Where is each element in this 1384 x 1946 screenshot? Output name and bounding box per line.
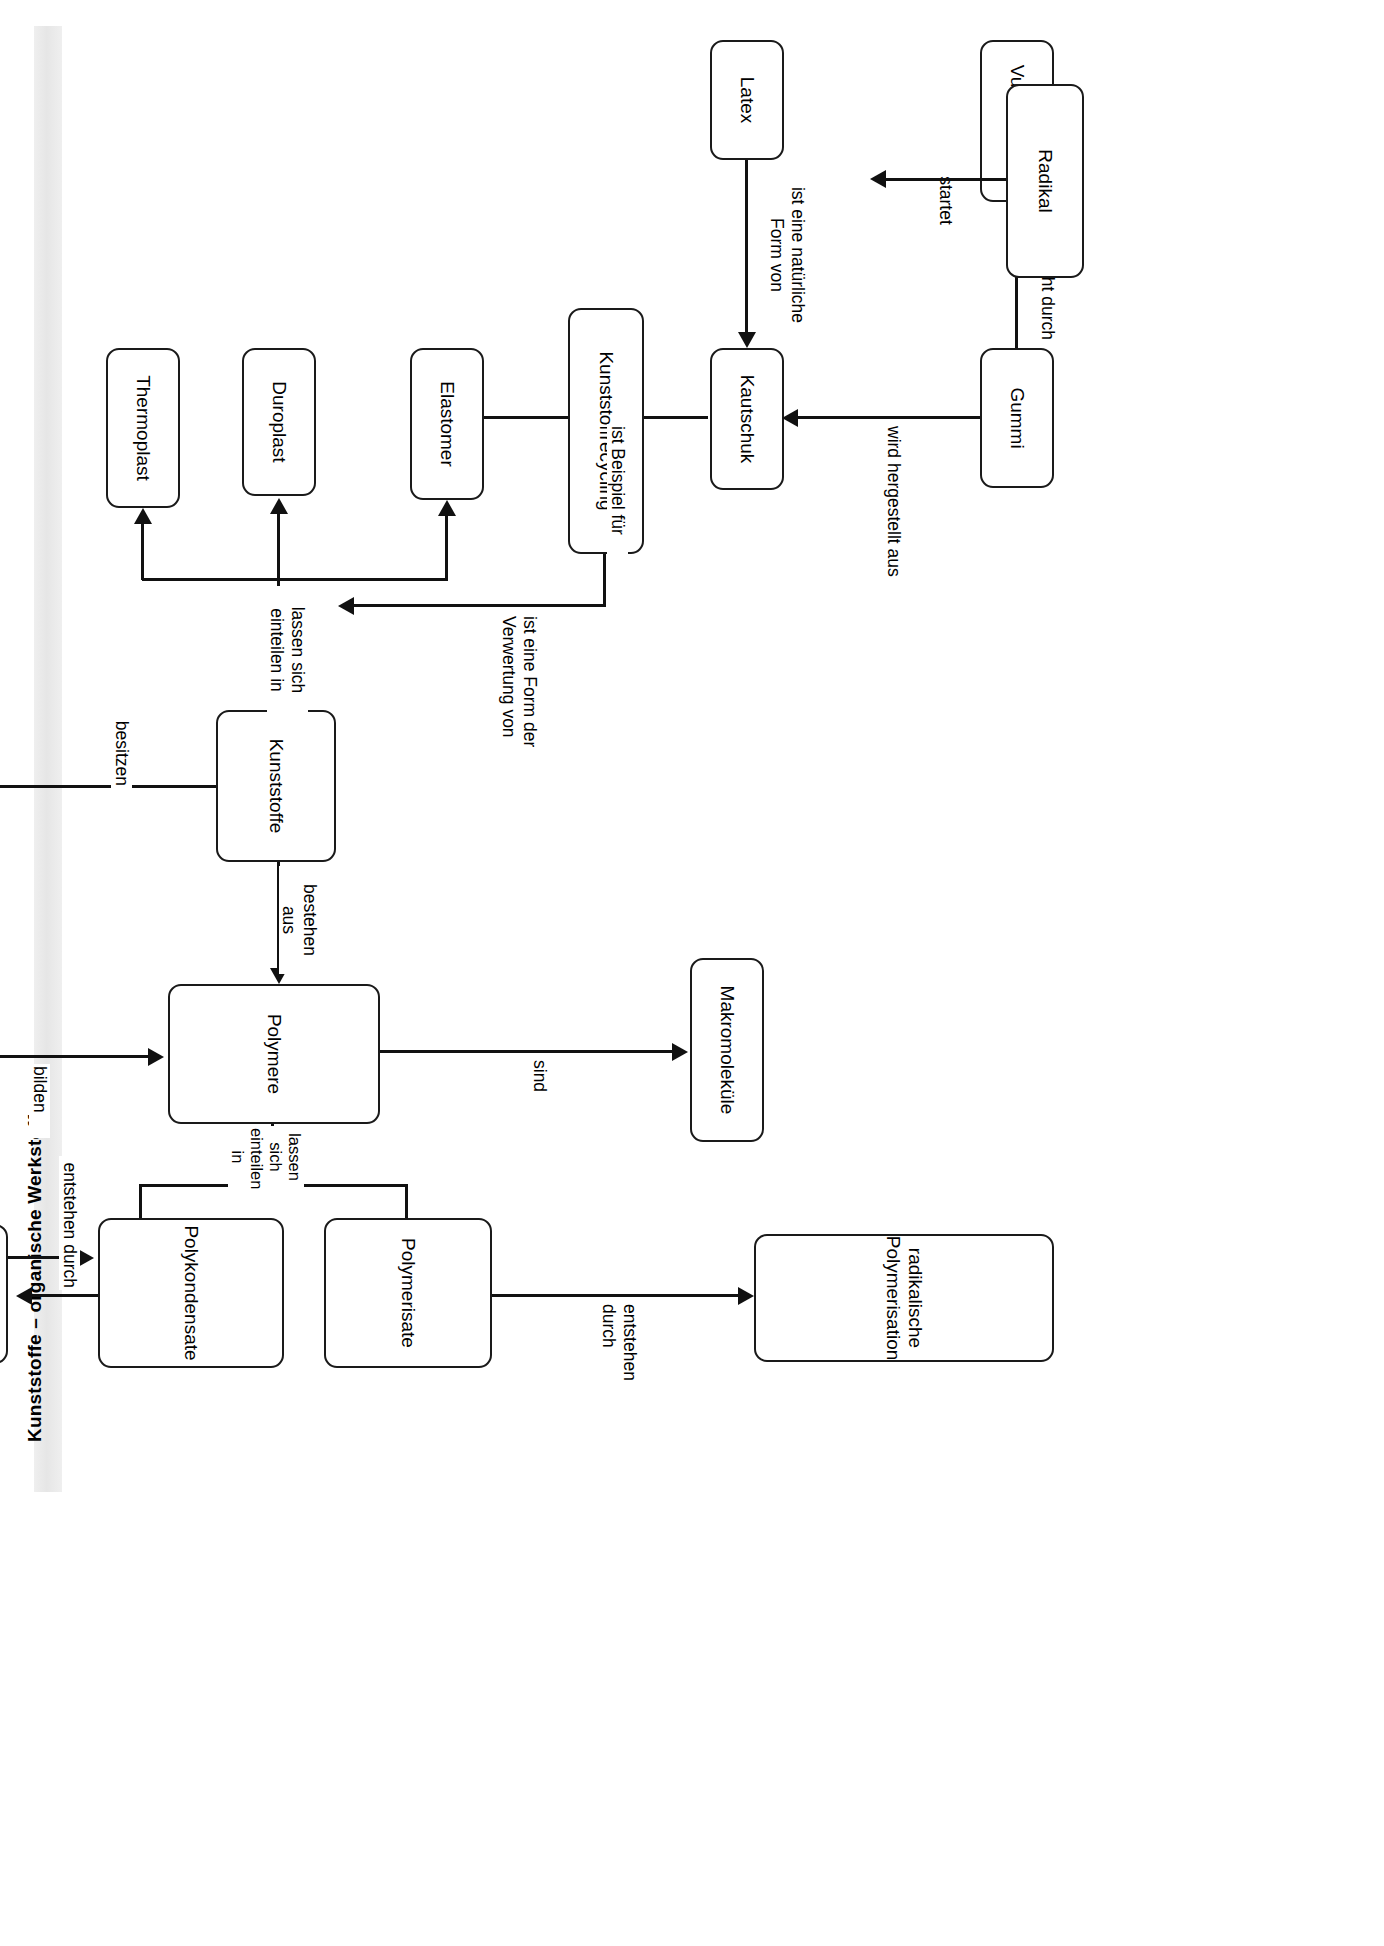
- node-label: Radikal: [1034, 149, 1056, 212]
- edge-bus-to-duroplast: [278, 512, 281, 580]
- node-label: Elastomer: [436, 381, 458, 467]
- edge-polyester-polykondensate-arrowhead: [78, 1249, 94, 1267]
- edge-label-wird-hergestellt-aus: wird hergestellt aus: [883, 424, 904, 588]
- node-gummi[interactable]: Gummi: [980, 348, 1054, 488]
- page-title: Kunststoffe – organische Werkstoffe: [24, 12, 46, 1442]
- edge-monomere-polymere-arrowhead: [148, 1048, 164, 1066]
- edge-polymerisate-radikal-poly-arrowhead: [738, 1287, 754, 1305]
- edge-label-lassen-sich-einteilen-in-2: lassen sich einteilen in: [228, 1126, 304, 1188]
- node-polykondensation[interactable]: Polykondensation: [0, 1224, 8, 1364]
- edge-label-entstehen-durch-1: entstehen durch: [599, 1302, 640, 1426]
- edge-gummi-kautschuk-v1: [900, 416, 980, 419]
- edge-bus-duroplast-arrowhead: [270, 498, 288, 514]
- edge-recycling-kunststoffe-v: [348, 604, 606, 607]
- diagram-canvas-wrapper: Vulkanisation Gummi ensteht durch Latex …: [70, 18, 1080, 1508]
- edge-kunststoffe-types-bus-v: [142, 578, 448, 581]
- edge-polykondensate-polykondensation-arrowhead: [16, 1287, 32, 1305]
- node-makromolekuele[interactable]: Makromoleküle: [690, 958, 764, 1142]
- concept-map-canvas: Vulkanisation Gummi ensteht durch Latex …: [70, 18, 1080, 1508]
- node-duroplast[interactable]: Duroplast: [242, 348, 316, 496]
- node-polymere[interactable]: Polymere: [168, 984, 380, 1124]
- node-label: radikalische Polymerisation: [882, 1236, 926, 1361]
- edge-polykondensate-polykondensation-line: [26, 1294, 98, 1297]
- edge-label-ist-eine-natuerliche-form-von: ist eine natürliche Form von: [767, 178, 808, 332]
- node-label: Gummi: [1006, 387, 1028, 448]
- node-polykondensate[interactable]: Polykondensate: [98, 1218, 284, 1368]
- edge-label-bilden: bilden: [29, 1064, 50, 1138]
- node-label: Makromoleküle: [716, 986, 738, 1115]
- edge-polymere-makro-line: [378, 1050, 674, 1053]
- node-label: Thermoplast: [132, 375, 154, 481]
- edge-bus-thermoplast-arrowhead: [134, 508, 152, 524]
- edge-monomere-polymere-line: [0, 1055, 150, 1058]
- edge-label-bestehen-aus: bestehen aus: [279, 866, 320, 974]
- edge-split-polymerisate: [406, 1184, 409, 1222]
- edge-recycling-kunststoffe-arrowhead: [338, 597, 354, 615]
- edge-label-ist-beispiel-fuer: ist Beispiel für: [607, 424, 628, 558]
- edge-label-besitzen: besitzen: [111, 708, 132, 788]
- edge-bus-to-elastomer: [446, 514, 449, 580]
- node-label: Polymere: [263, 1014, 285, 1094]
- node-thermoplast[interactable]: Thermoplast: [106, 348, 180, 508]
- node-kunststoffe[interactable]: Kunststoffe: [216, 710, 336, 862]
- node-label: Kautschuk: [736, 375, 758, 464]
- node-kautschuk[interactable]: Kautschuk: [710, 348, 784, 490]
- node-latex[interactable]: Latex: [710, 40, 784, 160]
- edge-split-polykondensate: [140, 1184, 143, 1222]
- node-kunststoffrecycling-box[interactable]: Kunststoffrecycling: [568, 308, 644, 554]
- edge-polymerisate-radikal-poly-line: [490, 1294, 740, 1297]
- node-label: Duroplast: [268, 381, 290, 462]
- edge-label-sind: sind: [529, 1058, 550, 1122]
- edge-bus-to-thermoplast: [142, 522, 145, 580]
- edge-latex-kautschuk-line: [746, 160, 749, 332]
- edge-latex-kautschuk-arrowhead: [738, 332, 756, 348]
- edge-gummi-kautschuk-v2: [786, 416, 902, 419]
- node-radikal-box[interactable]: Radikal: [1006, 84, 1084, 278]
- node-label: Kunststoffe: [265, 739, 287, 834]
- node-radikalische-polymerisation-box[interactable]: radikalische Polymerisation: [754, 1234, 1054, 1362]
- node-polymerisate[interactable]: Polymerisate: [324, 1218, 492, 1368]
- edge-bus-elastomer-arrowhead: [438, 500, 456, 516]
- edge-label-entstehen-durch-2: entstehen durch: [59, 1156, 80, 1290]
- edge-gummi-kautschuk-arrowhead: [782, 409, 798, 427]
- node-label: Polykondensate: [180, 1225, 202, 1360]
- node-elastomer[interactable]: Elastomer: [410, 348, 484, 500]
- edge-kunststoffe-werkstoff-line: [0, 785, 216, 788]
- edge-label-lassen-sich-einteilen-in-1: lassen sich einteilen in: [267, 586, 308, 714]
- page-root: Kunststoffe – organische Werkstoffe Vulk…: [0, 0, 1384, 1946]
- edge-label-ist-eine-form-der-verwertung-von: ist eine Form der Verwertung von: [499, 614, 540, 788]
- edge-polymere-makro-arrowhead: [672, 1043, 688, 1061]
- node-label: Polymerisate: [397, 1238, 419, 1348]
- edge-recycling-kunststoffe-line: [604, 554, 607, 606]
- node-label: Latex: [736, 77, 758, 123]
